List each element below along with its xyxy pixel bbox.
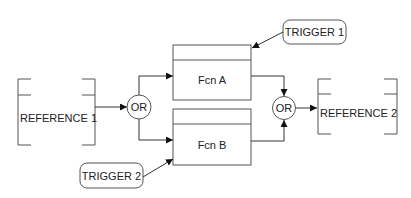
or-junction-1-label: OR [131,101,148,113]
function-a-box[interactable]: Fcn A [173,45,251,100]
reference-2-label: REFERENCE 2 [320,107,397,119]
diagram-canvas: REFERENCE 1 OR Fcn A Fcn B TRIGGER 1 TRI… [0,0,411,198]
function-a-label: Fcn A [198,74,227,86]
function-b-box[interactable]: Fcn B [173,109,251,165]
or-junction-2[interactable]: OR [273,97,296,120]
trigger-2-label: TRIGGER 2 [82,170,141,182]
or-junction-1[interactable]: OR [127,95,151,119]
edge-fcna-or2 [251,76,284,96]
or-junction-2-label: OR [276,102,293,114]
edge-or1-fcna [139,76,173,95]
function-b-label: Fcn B [198,139,227,151]
trigger-1-label: TRIGGER 1 [285,26,344,38]
reference-1-label: REFERENCE 1 [20,112,97,124]
edge-trigger1-fcna [252,32,283,48]
edge-trigger2-fcnb [143,159,173,177]
trigger-2-node[interactable]: TRIGGER 2 [80,163,143,188]
edge-fcnb-or2 [251,120,284,141]
reference-2-node[interactable]: REFERENCE 2 [318,79,397,134]
reference-1-node[interactable]: REFERENCE 1 [18,79,97,145]
trigger-1-node[interactable]: TRIGGER 1 [283,20,346,44]
edge-or1-fcnb [139,119,173,140]
